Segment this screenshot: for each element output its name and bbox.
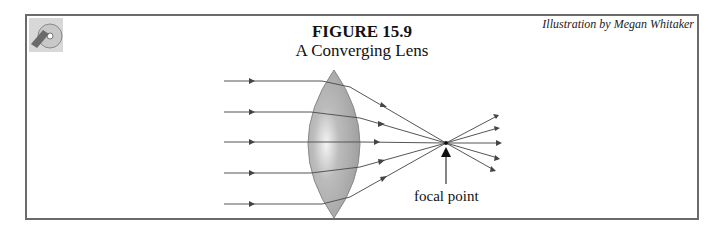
converging-lens-diagram (0, 0, 724, 235)
focal-point (444, 141, 448, 145)
focal-point-label: focal point (414, 188, 479, 205)
